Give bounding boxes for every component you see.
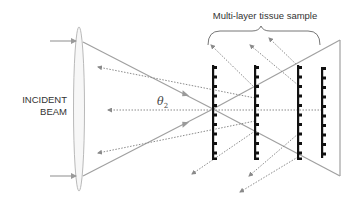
incident-label-line1: INCIDENT (14, 94, 67, 106)
angle-label: θ2 (157, 95, 168, 110)
beam-diverge-lower (213, 109, 340, 176)
beam-diverge-upper (213, 40, 340, 109)
lens (74, 27, 85, 191)
angle-subscript: 2 (164, 102, 168, 110)
tissue-layer-3 (297, 65, 302, 160)
incident-beam-label: INCIDENT BEAM (14, 94, 67, 118)
beam-lower-arrow-icon (182, 122, 189, 129)
tissue-layer-2 (254, 65, 259, 160)
scattered-rays (98, 38, 322, 192)
tissue-layer-4 (321, 67, 326, 158)
beam-upper (83, 42, 213, 109)
beam-upper-arrow-icon (182, 90, 189, 97)
incident-label-line2: BEAM (14, 106, 67, 118)
tissue-layer-1 (212, 65, 217, 160)
angle-symbol: θ (157, 95, 164, 108)
brace-icon (208, 26, 320, 45)
sample-title: Multi-layer tissue sample (206, 10, 324, 22)
